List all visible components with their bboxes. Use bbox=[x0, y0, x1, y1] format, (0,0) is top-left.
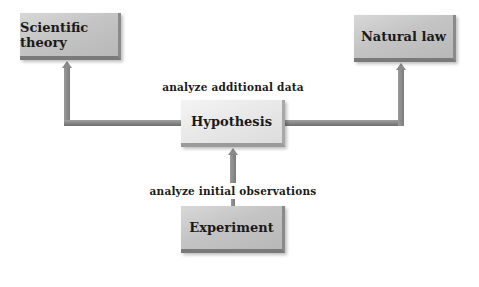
connector-right-horizontal bbox=[284, 120, 404, 126]
node-label: Scientific theory bbox=[20, 20, 118, 50]
edge-label-analyze-additional-data: analyze additional data bbox=[162, 81, 303, 93]
node-label: Natural law bbox=[361, 29, 446, 44]
node-label: Experiment bbox=[189, 220, 273, 235]
node-scientific-theory: Scientific theory bbox=[20, 13, 121, 60]
node-experiment: Experiment bbox=[181, 206, 285, 253]
arrowhead-up-icon bbox=[62, 61, 72, 68]
edge-label-analyze-initial-observations: analyze initial observations bbox=[150, 185, 317, 197]
arrowhead-up-icon bbox=[228, 148, 238, 155]
connector-center-stub bbox=[231, 199, 235, 206]
connector-left-vertical bbox=[64, 68, 70, 126]
connector-right-vertical bbox=[398, 70, 404, 126]
arrowhead-up-icon bbox=[396, 63, 406, 70]
node-label: Hypothesis bbox=[191, 114, 272, 129]
node-natural-law: Natural law bbox=[354, 15, 456, 62]
connector-left-horizontal bbox=[64, 120, 182, 126]
connector-center-vertical bbox=[230, 155, 236, 183]
node-hypothesis: Hypothesis bbox=[181, 100, 285, 147]
